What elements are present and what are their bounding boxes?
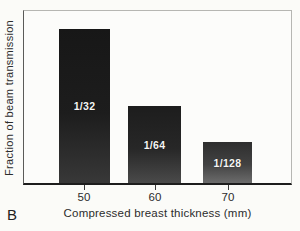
bar-50mm: 1/32 bbox=[59, 29, 110, 183]
x-tick-label-70: 70 bbox=[208, 191, 248, 203]
bar-chart-figure: Fraction of beam transmission 1/32 1/64 … bbox=[0, 0, 300, 231]
bar-70mm: 1/128 bbox=[203, 142, 252, 183]
x-tick-mark-60 bbox=[155, 185, 156, 190]
y-axis-label: Fraction of beam transmission bbox=[3, 20, 15, 176]
x-tick-label-50: 50 bbox=[64, 191, 104, 203]
x-tick-label-60: 60 bbox=[135, 191, 175, 203]
panel-label: B bbox=[7, 206, 17, 223]
plot-area: 1/32 1/64 1/128 bbox=[23, 10, 292, 185]
bar-value-label-50mm: 1/32 bbox=[74, 100, 96, 112]
x-tick-mark-50 bbox=[84, 185, 85, 190]
bar-value-label-70mm: 1/128 bbox=[214, 157, 242, 169]
x-tick-mark-70 bbox=[228, 185, 229, 190]
x-axis-label: Compressed breast thickness (mm) bbox=[23, 207, 292, 219]
bar-value-label-60mm: 1/64 bbox=[144, 139, 166, 151]
bar-60mm: 1/64 bbox=[128, 106, 181, 183]
